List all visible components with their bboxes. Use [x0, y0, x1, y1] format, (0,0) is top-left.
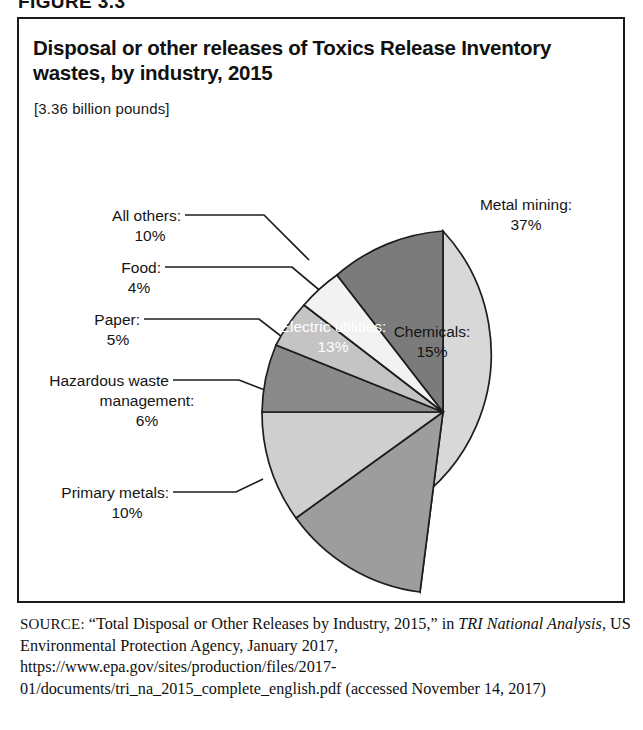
callout-all-others: All others: 10%	[112, 207, 181, 244]
inner-metal-mining-name: Metal mining:	[480, 196, 572, 213]
callout-all-others-value: 10%	[134, 227, 165, 244]
callout-food-value: 4%	[128, 279, 151, 296]
callout-primary-metals-name: Primary metals:	[61, 484, 169, 501]
leader-line-food	[165, 267, 324, 294]
callout-hazardous-waste: Hazardous waste management: 6%	[49, 372, 194, 429]
callout-hazardous-value: 6%	[136, 412, 159, 429]
inner-chemicals-value: 15%	[416, 343, 447, 360]
callout-food: Food: 4%	[121, 259, 161, 296]
callout-hazardous-name-line1: Hazardous waste	[49, 372, 169, 389]
inner-label-metal-mining: Metal mining: 37%	[480, 196, 572, 233]
pie-chart-svg: All others: 10% Food: 4% Paper: 5% Hazar…	[17, 17, 625, 603]
callout-paper-value: 5%	[107, 331, 130, 348]
inner-electric-value: 13%	[317, 338, 348, 355]
callout-food-name: Food:	[121, 259, 161, 276]
leader-line-hazardous-waste	[173, 380, 270, 392]
callout-paper: Paper: 5%	[94, 311, 140, 348]
pie-chart: All others: 10% Food: 4% Paper: 5% Hazar…	[17, 17, 625, 603]
source-kicker: SOURCE:	[20, 616, 89, 632]
inner-chemicals-name: Chemicals:	[394, 323, 471, 340]
leader-line-all-others	[185, 215, 309, 260]
source-publication-title: TRI National Analysis	[458, 615, 602, 633]
inner-metal-mining-value: 37%	[510, 216, 541, 233]
callout-primary-metals: Primary metals: 10%	[61, 484, 169, 521]
callout-hazardous-name-line2: management:	[100, 392, 195, 409]
inner-electric-name: Electric utilities:	[280, 318, 387, 335]
figure-number: FIGURE 3.3	[18, 0, 125, 13]
callout-paper-name: Paper:	[94, 311, 140, 328]
callout-primary-metals-value: 10%	[111, 504, 142, 521]
source-note: SOURCE: “Total Disposal or Other Release…	[20, 614, 636, 700]
leader-line-paper	[144, 319, 295, 347]
leader-line-primary-metals	[173, 479, 263, 492]
source-text-part-1: “Total Disposal or Other Releases by Ind…	[89, 615, 459, 633]
callout-all-others-name: All others:	[112, 207, 181, 224]
